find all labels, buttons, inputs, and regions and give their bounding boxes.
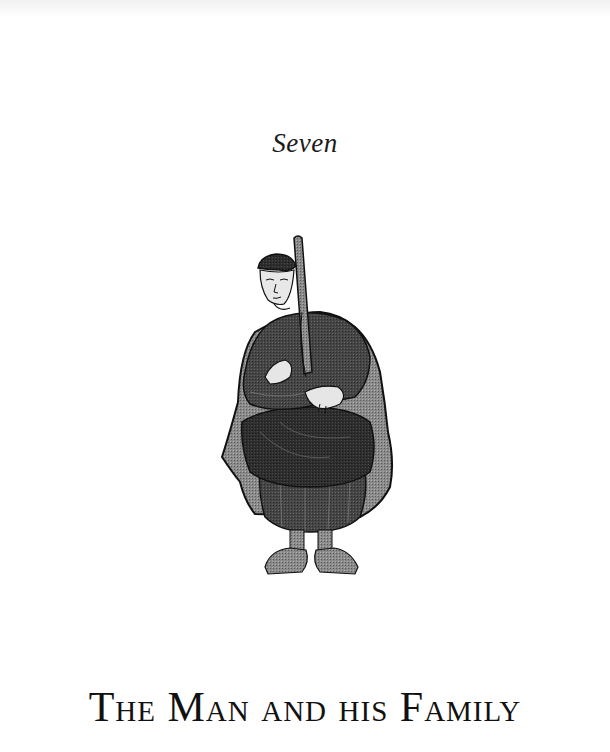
chapter-number: Seven bbox=[0, 128, 610, 159]
lap-robe bbox=[242, 407, 374, 487]
page-edge-shadow bbox=[0, 0, 610, 18]
head bbox=[258, 254, 296, 309]
feet bbox=[265, 548, 358, 574]
chapter-illustration bbox=[210, 232, 410, 580]
chapter-title: The Man and his Family bbox=[0, 683, 610, 731]
